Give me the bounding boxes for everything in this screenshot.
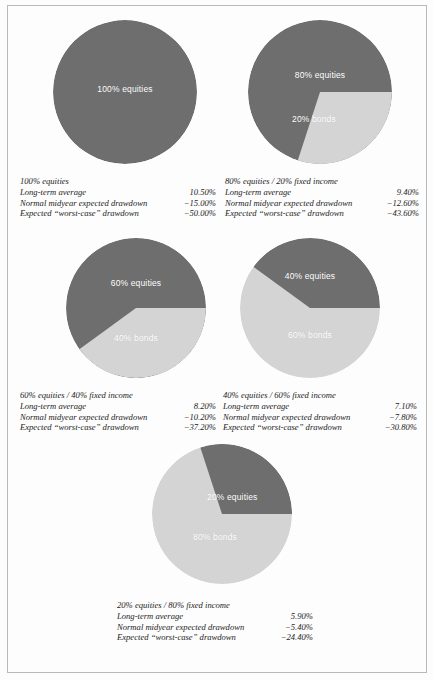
stats-value: −10.20% (178, 412, 216, 423)
stats-row-long-term-average: Long-term average 5.90% (117, 611, 313, 622)
stats-row-long-term-average: Long-term average 7.10% (223, 401, 417, 412)
stats-label: Normal midyear expected drawdown (225, 198, 352, 209)
stats-row-normal-drawdown: Normal midyear expected drawdown −15.00% (20, 198, 216, 209)
stats-label: Long-term average (20, 401, 86, 412)
pie-svg-80-20 (248, 20, 392, 164)
stats-value: −7.80% (383, 412, 417, 423)
stats-label: Long-term average (223, 401, 289, 412)
stats-heading: 100% equities (20, 176, 216, 187)
stats-value: −50.00% (178, 208, 216, 219)
pie-chart-60-40: 60% equities 40% bonds (66, 238, 206, 378)
stats-block-80-20: 80% equities / 20% fixed income Long-ter… (225, 176, 419, 219)
stats-row-worst-case-drawdown: Expected “worst-case” drawdown −43.60% (225, 208, 419, 219)
stats-label: Normal midyear expected drawdown (117, 622, 244, 633)
stats-value: −30.80% (379, 422, 417, 433)
pie-chart-80-20: 80% equities 20% bonds (248, 20, 392, 164)
stats-label: Expected “worst-case” drawdown (225, 208, 344, 219)
stats-heading: 60% equities / 40% fixed income (20, 390, 216, 401)
stats-label: Expected “worst-case” drawdown (20, 422, 139, 433)
stats-row-normal-drawdown: Normal midyear expected drawdown −5.40% (117, 622, 313, 633)
pie-svg-20-80 (152, 444, 292, 584)
stats-block-60-40: 60% equities / 40% fixed income Long-ter… (20, 390, 216, 433)
stats-heading: 20% equities / 80% fixed income (117, 600, 313, 611)
stats-label: Normal midyear expected drawdown (20, 412, 147, 423)
stats-label: Expected “worst-case” drawdown (223, 422, 342, 433)
pie-slice-label-equities: 20% equities (207, 492, 297, 502)
stats-row-long-term-average: Long-term average 9.40% (225, 187, 419, 198)
stats-row-normal-drawdown: Normal midyear expected drawdown −12.60% (225, 198, 419, 209)
stats-label: Normal midyear expected drawdown (20, 198, 147, 209)
stats-value: −15.00% (178, 198, 216, 209)
stats-label: Expected “worst-case” drawdown (117, 632, 236, 643)
stats-value: 5.90% (285, 611, 313, 622)
pie-chart-40-60: 40% equities 60% bonds (240, 238, 380, 378)
stats-row-normal-drawdown: Normal midyear expected drawdown −10.20% (20, 412, 216, 423)
stats-value: 7.10% (389, 401, 417, 412)
stats-row-worst-case-drawdown: Expected “worst-case” drawdown −37.20% (20, 422, 216, 433)
stats-row-normal-drawdown: Normal midyear expected drawdown −7.80% (223, 412, 417, 423)
stats-label: Long-term average (225, 187, 291, 198)
stats-block-20-80: 20% equities / 80% fixed income Long-ter… (117, 600, 313, 643)
stats-value: −37.20% (178, 422, 216, 433)
stats-value: 8.20% (188, 401, 216, 412)
exhibit-page: 100% equities 100% equities Long-term av… (0, 0, 434, 680)
stats-label: Normal midyear expected drawdown (223, 412, 350, 423)
stats-label: Long-term average (20, 187, 86, 198)
stats-heading: 40% equities / 60% fixed income (223, 390, 417, 401)
stats-value: 9.40% (391, 187, 419, 198)
stats-label: Expected “worst-case” drawdown (20, 208, 139, 219)
stats-value: −43.60% (381, 208, 419, 219)
stats-row-worst-case-drawdown: Expected “worst-case” drawdown −24.40% (117, 632, 313, 643)
pie-svg-40-60 (240, 238, 380, 378)
stats-row-long-term-average: Long-term average 10.50% (20, 187, 216, 198)
pie-slice-label-bonds: 60% bonds (240, 330, 380, 340)
stats-value: 10.50% (184, 187, 217, 198)
stats-block-40-60: 40% equities / 60% fixed income Long-ter… (223, 390, 417, 433)
stats-value: −24.40% (275, 632, 313, 643)
pie-svg-60-40 (66, 238, 206, 378)
stats-heading: 80% equities / 20% fixed income (225, 176, 419, 187)
stats-label: Long-term average (117, 611, 183, 622)
stats-row-worst-case-drawdown: Expected “worst-case” drawdown −30.80% (223, 422, 417, 433)
pie-slice-label-equities: 100% equities (53, 84, 197, 94)
stats-value: −5.40% (279, 622, 313, 633)
pie-slice-label-bonds: 80% bonds (152, 532, 278, 542)
pie-slice-label-equities: 40% equities (240, 271, 380, 281)
pie-chart-100-0: 100% equities (53, 20, 197, 164)
pie-slice-label-bonds: 20% bonds (292, 114, 392, 124)
stats-block-100-0: 100% equities Long-term average 10.50% N… (20, 176, 216, 219)
stats-row-worst-case-drawdown: Expected “worst-case” drawdown −50.00% (20, 208, 216, 219)
pie-slice-label-bonds: 40% bonds (66, 333, 206, 343)
pie-slice-label-equities: 60% equities (66, 278, 206, 288)
stats-value: −12.60% (381, 198, 419, 209)
pie-slice-label-equities: 80% equities (248, 70, 392, 80)
stats-row-long-term-average: Long-term average 8.20% (20, 401, 216, 412)
pie-chart-20-80: 20% equities 80% bonds (152, 444, 292, 584)
